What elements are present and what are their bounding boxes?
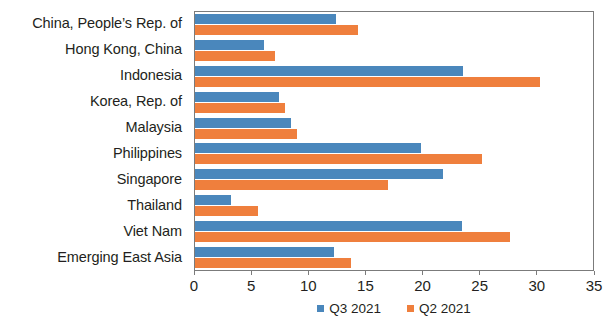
bar-q2-2021 <box>195 25 358 35</box>
x-axis-tick-label: 30 <box>529 276 546 296</box>
bar-q2-2021 <box>195 77 540 87</box>
legend-item[interactable]: Q3 2021 <box>317 301 381 316</box>
bar-q2-2021 <box>195 51 275 61</box>
bar-q3-2021 <box>195 66 463 76</box>
category-label: Viet Nam <box>0 219 188 245</box>
x-axis-tick <box>422 271 423 275</box>
x-axis-tick-label: 25 <box>471 276 488 296</box>
bar-q2-2021 <box>195 129 297 139</box>
x-axis-tick-labels: 05101520253035 <box>194 276 594 298</box>
bar-row <box>195 12 593 38</box>
bar-row <box>195 141 593 167</box>
x-axis-tick-label: 0 <box>190 276 198 296</box>
bar-q2-2021 <box>195 232 510 242</box>
x-axis-tick <box>251 271 252 275</box>
bar-q3-2021 <box>195 40 264 50</box>
bar-row <box>195 193 593 219</box>
bar-q2-2021 <box>195 206 258 216</box>
bar-q2-2021 <box>195 180 388 190</box>
bar-row <box>195 218 593 244</box>
category-label: Singapore <box>0 167 188 193</box>
legend-swatch-icon <box>317 305 324 312</box>
x-axis-tick <box>536 271 537 275</box>
bar-row <box>195 244 593 270</box>
category-label: Philippines <box>0 141 188 167</box>
bar-row <box>195 38 593 64</box>
category-label: Emerging East Asia <box>0 245 188 271</box>
category-axis-labels: China, People’s Rep. ofHong Kong, ChinaI… <box>0 11 188 271</box>
x-axis-tick <box>194 271 195 275</box>
x-axis-tick-label: 20 <box>414 276 431 296</box>
category-label: China, People’s Rep. of <box>0 11 188 37</box>
legend-swatch-icon <box>407 305 414 312</box>
category-label: Indonesia <box>0 63 188 89</box>
legend-label: Q3 2021 <box>329 301 381 316</box>
plot-area <box>194 11 594 271</box>
bar-row <box>195 89 593 115</box>
bar-q3-2021 <box>195 92 279 102</box>
x-axis-tick-label: 35 <box>586 276 603 296</box>
category-label: Hong Kong, China <box>0 37 188 63</box>
bar-q2-2021 <box>195 103 285 113</box>
x-axis-tick <box>308 271 309 275</box>
x-axis-tick-label: 15 <box>357 276 374 296</box>
bar-q2-2021 <box>195 258 351 268</box>
bar-q3-2021 <box>195 247 334 257</box>
bar-q2-2021 <box>195 154 482 164</box>
category-label: Malaysia <box>0 115 188 141</box>
bar-q3-2021 <box>195 143 421 153</box>
bar-chart: China, People’s Rep. ofHong Kong, ChinaI… <box>0 0 603 319</box>
bar-q3-2021 <box>195 118 291 128</box>
x-axis-tick <box>479 271 480 275</box>
bar-q3-2021 <box>195 14 336 24</box>
x-axis-tick <box>594 271 595 275</box>
bar-q3-2021 <box>195 195 231 205</box>
legend-label: Q2 2021 <box>419 301 471 316</box>
x-axis-tick-label: 5 <box>247 276 255 296</box>
chart-legend: Q3 2021Q2 2021 <box>194 298 594 318</box>
bar-row <box>195 167 593 193</box>
x-axis-tick-label: 10 <box>300 276 317 296</box>
bar-row <box>195 115 593 141</box>
category-label: Korea, Rep. of <box>0 89 188 115</box>
bar-row <box>195 64 593 90</box>
legend-item[interactable]: Q2 2021 <box>407 301 471 316</box>
bar-rows <box>195 12 593 270</box>
x-axis-tick <box>365 271 366 275</box>
bar-q3-2021 <box>195 169 443 179</box>
category-label: Thailand <box>0 193 188 219</box>
bar-q3-2021 <box>195 221 462 231</box>
